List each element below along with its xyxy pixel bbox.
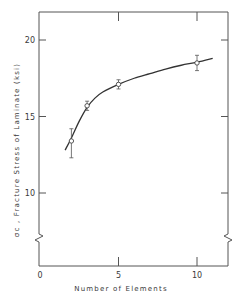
data-point: [116, 80, 120, 89]
point-marker-icon: [85, 104, 89, 108]
y-axis-label: σc , Fracture Stress of Laminate (ksi): [13, 63, 21, 237]
point-marker-icon: [116, 82, 120, 86]
x-tick-label: 0: [37, 271, 42, 280]
data-point: [195, 55, 199, 70]
axis-ticks: [39, 12, 228, 266]
y-tick-label: 10: [25, 189, 35, 198]
x-tick-label: 5: [116, 271, 121, 280]
x-tick-label: 10: [192, 271, 202, 280]
y-tick-label: 15: [25, 113, 35, 122]
y-tick-label: 20: [25, 36, 35, 45]
tick-labels: 0510101520: [25, 36, 202, 280]
point-marker-icon: [69, 139, 73, 143]
plot-frame: [35, 12, 232, 266]
x-axis-label: Number of Elements: [74, 285, 168, 293]
data-points: [69, 55, 199, 158]
y-axis-left-with-break: [35, 12, 43, 266]
y-axis-right-with-break: [224, 12, 232, 266]
point-marker-icon: [195, 61, 199, 65]
chart: 0510101520 Number of Elements σc , Fract…: [0, 0, 243, 297]
